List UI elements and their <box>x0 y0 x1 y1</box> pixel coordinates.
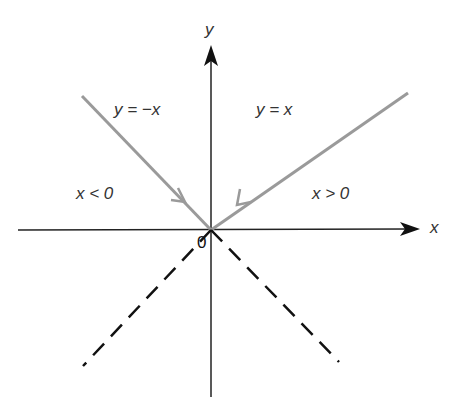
right-line-label: y = x <box>256 100 292 120</box>
origin-label: 0 <box>197 233 206 253</box>
right-region-label: x > 0 <box>312 184 349 204</box>
dashed-lower-left <box>83 230 211 366</box>
dashed-lower-right <box>211 230 339 362</box>
diagram-canvas <box>0 0 453 407</box>
x-axis-label: x <box>430 218 439 238</box>
y-axis-label: y <box>205 20 214 40</box>
left-region-label: x < 0 <box>76 184 113 204</box>
line-y-eq-x <box>211 93 408 230</box>
right-line-arrow-icon <box>237 189 251 205</box>
left-line-label: y = −x <box>114 100 160 120</box>
